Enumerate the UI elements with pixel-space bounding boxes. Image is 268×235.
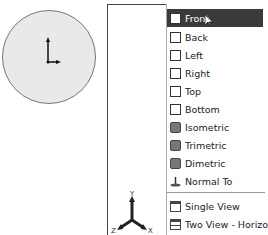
menu-item-isometric[interactable]: Isometric — [167, 118, 263, 136]
svg-text:Z: Z — [111, 227, 116, 235]
right-view-icon — [170, 68, 181, 79]
menu-item-top[interactable]: Top — [167, 82, 263, 100]
viewport-preview-circle — [2, 10, 96, 104]
menu-item-right[interactable]: Right — [167, 64, 263, 82]
isometric-icon — [170, 122, 181, 133]
view-orientation-menu: Front Back Left Right Top Bottom Isometr… — [166, 4, 265, 235]
view-triad-icon: Y Z X — [110, 190, 160, 235]
menu-item-single-view[interactable]: Single View — [167, 197, 263, 215]
svg-text:X: X — [148, 227, 153, 235]
trimetric-icon — [170, 140, 181, 151]
menu-separator — [167, 192, 265, 193]
back-view-icon — [170, 32, 181, 43]
mouse-cursor-icon — [205, 15, 215, 27]
menu-item-bottom[interactable]: Bottom — [167, 100, 263, 118]
two-view-horizontal-icon — [170, 219, 181, 230]
menu-item-dimetric[interactable]: Dimetric — [167, 154, 263, 172]
bottom-view-icon — [170, 104, 181, 115]
origin-axes-icon — [2, 10, 96, 104]
menu-item-left[interactable]: Left — [167, 46, 263, 64]
dimetric-icon — [170, 158, 181, 169]
top-view-icon — [170, 86, 181, 97]
left-view-icon — [170, 50, 181, 61]
menu-item-front[interactable]: Front — [167, 9, 263, 27]
front-view-icon — [170, 13, 181, 24]
menu-item-back[interactable]: Back — [167, 28, 263, 46]
menu-item-two-view-horizontal[interactable]: Two View - Horizontal — [167, 215, 263, 233]
menu-item-normal-to[interactable]: Normal To — [167, 172, 263, 190]
menu-item-trimetric[interactable]: Trimetric — [167, 136, 263, 154]
normal-to-icon — [170, 176, 181, 187]
single-view-icon — [170, 201, 181, 212]
svg-text:Y: Y — [129, 190, 135, 198]
menu-item-two-view-vertical[interactable]: Two View - Vertical — [167, 233, 263, 235]
